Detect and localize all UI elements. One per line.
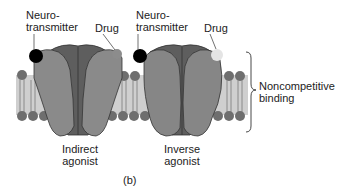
drug-label-right: Drug xyxy=(204,22,228,34)
label-line: transmitter xyxy=(136,21,188,33)
label-line: Inverse xyxy=(157,143,207,155)
label-line: Noncompetitive xyxy=(259,80,335,92)
inverse-agonist-label: Inverse agonist xyxy=(157,143,207,167)
drug-inverse xyxy=(211,49,223,61)
label-line: agonist xyxy=(157,155,207,167)
label-line: Neuro- xyxy=(26,9,78,21)
noncompetitive-binding-label: Noncompetitive binding xyxy=(259,80,335,104)
drug-label-left: Drug xyxy=(95,22,119,34)
receptor-inverse-agonist xyxy=(144,45,222,136)
drug-indirect xyxy=(112,49,122,59)
label-line: agonist xyxy=(55,155,105,167)
receptor-indirect-agonist xyxy=(34,45,122,136)
neurotransmitter-right xyxy=(133,49,147,63)
label-line: binding xyxy=(259,92,335,104)
panel-label: (b) xyxy=(123,174,136,186)
neurotransmitter-label-left: Neuro- transmitter xyxy=(26,9,78,33)
neurotransmitter-label-right: Neuro- transmitter xyxy=(136,9,188,33)
label-line: transmitter xyxy=(26,21,78,33)
indirect-agonist-label: Indirect agonist xyxy=(55,143,105,167)
label-line: Neuro- xyxy=(136,9,188,21)
label-line: Indirect xyxy=(55,143,105,155)
neurotransmitter-left xyxy=(29,49,43,63)
